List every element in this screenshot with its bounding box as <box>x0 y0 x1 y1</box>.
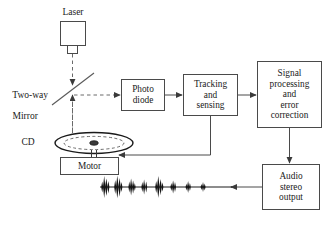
signal-label-line2: processing <box>270 79 310 90</box>
cd-disc-hub <box>90 141 98 145</box>
signal-processing-label: Signal processing and error correction <box>257 61 322 128</box>
photo-diode-label-line1: Photo <box>132 84 154 95</box>
audio-label-line1: Audio <box>279 171 302 182</box>
link-tracking-to-motor <box>119 116 211 156</box>
audio-waveform <box>100 176 232 199</box>
signal-label-line3: and <box>283 89 296 100</box>
laser-body <box>61 22 86 46</box>
tracking-label-line3: sensing <box>197 100 225 111</box>
tracking-label-line1: Tracking <box>194 79 227 90</box>
audio-label-line3: output <box>279 192 303 203</box>
audio-stereo-output-label: Audio stereo output <box>262 164 320 210</box>
signal-label-line5: correction <box>271 110 309 121</box>
motor-label: Motor <box>60 157 119 175</box>
tracking-label-line2: and <box>204 90 217 101</box>
laser-label: Laser <box>48 7 98 18</box>
tracking-and-sensing-label: Tracking and sensing <box>183 74 238 116</box>
photo-diode-label-line2: diode <box>133 95 154 106</box>
two-way-mirror-label-line2: Mirror <box>13 111 38 121</box>
motor-label-line1: Motor <box>78 161 101 172</box>
cd-label: CD <box>14 137 42 148</box>
signal-label-line4: error <box>280 100 298 111</box>
two-way-mirror-label: Two-way Mirror <box>3 79 63 132</box>
laser-nozzle <box>68 46 78 54</box>
diagram-canvas: Laser Two-way Mirror CD Photo diode Trac… <box>0 0 333 228</box>
two-way-mirror-label-line1: Two-way <box>12 90 48 100</box>
photo-diode-label: Photo diode <box>121 79 165 111</box>
signal-label-line1: Signal <box>278 68 302 79</box>
audio-label-line2: stereo <box>280 182 302 193</box>
